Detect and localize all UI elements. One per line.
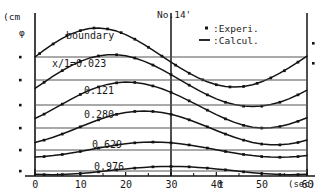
data-point	[133, 142, 136, 145]
data-point	[206, 167, 209, 170]
data-point	[224, 169, 227, 172]
curve-label-x-over-l: x/1=0.023	[52, 59, 106, 69]
data-point	[133, 81, 136, 84]
y-axis-tick-4	[19, 149, 22, 152]
data-point	[283, 69, 286, 72]
data-point	[115, 113, 118, 116]
data-point	[242, 139, 245, 142]
data-point	[242, 171, 245, 174]
stray-data-point-1	[312, 62, 315, 65]
data-point	[97, 55, 100, 58]
chart-figure: (cm φ No.14' :Experi. :Calcul. boundary …	[0, 0, 323, 195]
data-point	[161, 55, 164, 58]
data-point	[170, 73, 173, 76]
data-point	[120, 31, 123, 34]
data-point	[188, 100, 191, 103]
x-axis-tick-label-20: 20	[120, 180, 132, 190]
curve-label-0629: 0.629	[92, 140, 122, 150]
data-point	[279, 125, 282, 128]
data-point	[115, 53, 118, 56]
y-axis-unit-label: (cm	[3, 12, 20, 22]
data-point	[297, 173, 300, 176]
data-point	[61, 133, 64, 136]
data-point	[61, 173, 64, 176]
data-point	[188, 119, 191, 122]
x-axis-tick-label-10: 10	[75, 180, 87, 190]
y-axis-tick-5	[19, 170, 22, 173]
data-point	[188, 84, 191, 87]
data-point	[152, 110, 155, 113]
data-point	[297, 120, 300, 123]
data-point	[260, 155, 263, 158]
y-axis-tick-0	[19, 56, 22, 59]
data-point	[152, 85, 155, 88]
data-point	[133, 57, 136, 60]
data-point	[152, 64, 155, 67]
x-axis-tick-label-50: 50	[256, 180, 268, 190]
data-point	[147, 46, 150, 49]
curve-label-boundary: boundary	[66, 31, 114, 41]
data-point	[297, 141, 300, 144]
data-point	[174, 64, 177, 67]
data-point	[43, 155, 46, 158]
data-point	[43, 113, 46, 116]
curve-label-0280: 0.280	[84, 110, 114, 120]
data-point	[206, 126, 209, 129]
data-point	[206, 109, 209, 112]
data-point	[297, 94, 300, 97]
data-point	[279, 156, 282, 159]
data-point	[38, 52, 41, 55]
data-point	[279, 173, 282, 176]
data-point	[133, 110, 136, 113]
data-point	[115, 82, 118, 85]
legend-calcul-label: :Calcul.	[213, 36, 259, 46]
data-point	[152, 141, 155, 144]
legend-experi-label: :Experi.	[213, 24, 259, 34]
data-point	[170, 91, 173, 94]
data-point	[269, 77, 272, 80]
data-point	[224, 150, 227, 153]
y-axis-symbol-label: φ	[19, 28, 25, 38]
data-point	[170, 142, 173, 145]
data-point	[256, 82, 259, 85]
x-axis-tick-label-0: 0	[32, 180, 38, 190]
legend-dot-marker	[205, 27, 208, 30]
stray-data-point-0	[312, 42, 315, 45]
data-point	[133, 167, 136, 170]
data-point	[206, 147, 209, 150]
data-point	[206, 94, 209, 97]
data-point	[224, 118, 227, 121]
data-point	[61, 153, 64, 156]
data-point	[61, 103, 64, 106]
data-point	[260, 172, 263, 175]
data-point	[43, 81, 46, 84]
chart-plot-area	[0, 0, 323, 195]
data-point	[279, 144, 282, 147]
x-axis-tick-label-40: 40	[211, 180, 223, 190]
data-point	[170, 113, 173, 116]
data-point	[93, 27, 96, 30]
curve-label-0976: 0.976	[94, 162, 124, 172]
data-point	[188, 72, 191, 75]
data-point	[242, 124, 245, 127]
data-point	[260, 143, 263, 146]
y-axis-tick-2	[19, 104, 22, 107]
y-axis-tick-1	[19, 79, 22, 82]
data-point	[43, 173, 46, 176]
data-point	[79, 150, 82, 153]
data-point	[133, 38, 136, 41]
data-point	[170, 165, 173, 168]
data-point	[242, 153, 245, 156]
data-point	[279, 101, 282, 104]
data-point	[297, 61, 300, 64]
x-axis-tick-label-30: 30	[165, 180, 177, 190]
data-point	[79, 172, 82, 175]
data-point	[52, 43, 55, 46]
data-point	[242, 85, 245, 88]
data-point	[229, 86, 232, 89]
data-point	[188, 144, 191, 147]
y-axis-tick-3	[19, 127, 22, 130]
data-point	[188, 166, 191, 169]
data-point	[297, 155, 300, 158]
x-axis-tick-label-60: 60	[301, 180, 313, 190]
